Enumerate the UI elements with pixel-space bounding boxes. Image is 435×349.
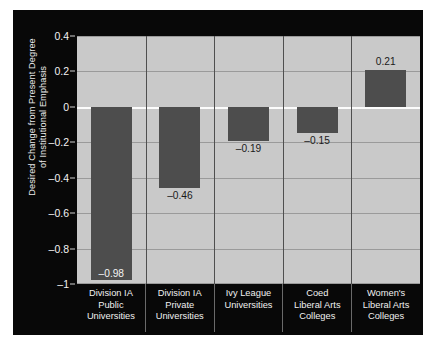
x-axis-category-4: CoedLiberal ArtsColleges <box>282 284 351 332</box>
bar <box>159 107 200 188</box>
x-axis-category-label-line: Liberal Arts <box>363 300 410 312</box>
y-axis-tick-label: 0.4 <box>54 30 69 42</box>
bar <box>297 107 338 134</box>
x-axis-category-label-line: Public <box>98 300 123 312</box>
bar-value-label: –0.19 <box>236 143 262 154</box>
y-axis-tick-mark <box>70 106 75 107</box>
x-axis-category-2: Division IAPrivateUniversities <box>145 284 214 332</box>
y-axis-tick-mark <box>70 71 75 72</box>
y-axis-tick-label: –0.4 <box>49 172 69 184</box>
x-axis-category-label-line: Liberal Arts <box>294 300 341 312</box>
category-divider <box>214 36 215 284</box>
x-axis-category-3: Ivy LeagueUniversities <box>214 284 283 332</box>
y-axis-tick-label: 0 <box>63 101 69 113</box>
y-axis-tick-labels: 0.40.20–0.2–0.4–0.6–0.8–1 <box>31 36 75 296</box>
y-axis-tick-label: –0.2 <box>49 136 69 148</box>
x-axis-category-label-line: Universities <box>156 311 204 323</box>
x-axis-category-5: Women'sLiberal ArtsColleges <box>351 284 420 332</box>
bar-value-label: 0.21 <box>376 56 396 67</box>
x-axis-category-label-line: Colleges <box>299 311 335 323</box>
y-axis-tick-mark <box>70 36 75 37</box>
x-axis-category-label-line: Division IA <box>158 288 202 300</box>
x-axis-category-1: Division IAPublicUniversities <box>77 284 145 332</box>
y-axis-tick-mark <box>70 213 75 214</box>
bar <box>91 107 132 281</box>
category-divider <box>146 36 147 284</box>
y-axis-tick-mark <box>70 248 75 249</box>
x-axis-category-label-line: Women's <box>367 288 405 300</box>
x-axis-category-label-line: Private <box>165 300 194 312</box>
bar-value-label: –0.15 <box>304 135 330 146</box>
y-axis-tick-mark <box>70 177 75 178</box>
y-axis-tick-label: –0.6 <box>49 207 69 219</box>
category-divider <box>351 36 352 284</box>
category-divider <box>283 36 284 284</box>
y-axis-tick-label: 0.2 <box>54 65 69 77</box>
y-axis-tick-label: –0.8 <box>49 243 69 255</box>
x-axis-category-label-line: Universities <box>224 300 272 312</box>
y-axis-tick-label: –1 <box>57 278 69 290</box>
x-axis-category-label-line: Ivy League <box>226 288 272 300</box>
bar-value-label: –0.46 <box>167 190 193 201</box>
chart-figure: Desired Change from Present Degree of In… <box>13 10 423 335</box>
bar-value-label: –0.98 <box>99 268 125 279</box>
bar <box>365 70 406 107</box>
x-axis-category-label-line: Division IA <box>89 288 133 300</box>
y-axis-tick-mark <box>70 142 75 143</box>
gridline <box>77 36 420 37</box>
y-axis-tick-mark <box>70 284 75 285</box>
plot-area: –0.98–0.46–0.19–0.150.21 <box>77 36 420 284</box>
x-axis-category-label-line: Colleges <box>368 311 404 323</box>
bar <box>228 107 269 141</box>
x-axis-category-labels: Division IAPublicUniversitiesDivision IA… <box>77 284 420 332</box>
x-axis-category-label-line: Universities <box>87 311 135 323</box>
x-axis-category-label-line: Coed <box>306 288 328 300</box>
